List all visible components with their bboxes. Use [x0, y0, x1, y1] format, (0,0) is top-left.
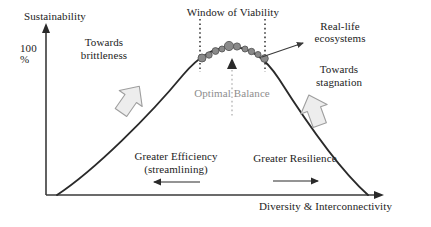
- real-life-label-line2: ecosystems: [314, 32, 365, 44]
- ecosystem-points-group: [198, 41, 268, 62]
- diagram-canvas: Sustainability 100 % Diversity & Interco…: [0, 0, 431, 227]
- towards-stagnation-line1: Towards: [320, 63, 358, 75]
- optimal-balance-marker-icon: [227, 58, 237, 69]
- towards-brittleness-line2: brittleness: [81, 49, 127, 61]
- ecosystem-point: [224, 41, 233, 50]
- brittleness-block-arrow-icon: [110, 78, 151, 120]
- y-axis: [42, 23, 50, 195]
- ecosystem-point: [212, 48, 219, 55]
- towards-stagnation-line2: stagnation: [316, 76, 362, 88]
- ecosystem-point: [255, 52, 261, 58]
- real-life-pointer-arrow: [262, 43, 303, 57]
- greater-resilience-label: Greater Resilience: [253, 152, 336, 164]
- towards-brittleness-line1: Towards: [85, 36, 123, 48]
- y-axis-arrowhead: [42, 23, 50, 33]
- y-axis-title: Sustainability: [24, 10, 86, 22]
- ecosystem-point: [198, 54, 206, 62]
- window-of-viability-diagram: [0, 0, 431, 227]
- x-axis: [46, 191, 384, 199]
- real-life-label-line1: Real-life: [320, 20, 359, 32]
- x-axis-title: Diversity & Interconnectivity: [259, 200, 392, 212]
- greater-efficiency-line2: (streamlining): [144, 163, 208, 175]
- ecosystem-point: [242, 46, 248, 52]
- ecosystem-point: [206, 52, 212, 58]
- x-axis-arrowhead: [374, 191, 384, 199]
- greater-efficiency-line1: Greater Efficiency: [134, 150, 217, 162]
- stagnation-block-arrow-icon: [296, 90, 333, 130]
- y-axis-tick-unit: %: [20, 53, 29, 65]
- ecosystem-point: [248, 48, 254, 54]
- window-of-viability-label: Window of Viability: [187, 6, 279, 18]
- optimal-balance-label: Optimal Balance: [194, 87, 270, 99]
- ecosystem-point: [233, 43, 240, 50]
